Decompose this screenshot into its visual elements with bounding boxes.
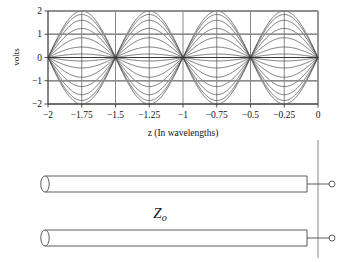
y-tick-label: 2 <box>37 6 42 16</box>
impedance-label: Zo <box>153 205 166 223</box>
x-tick-label: −1.25 <box>138 110 160 120</box>
y-tick-label: 1 <box>37 29 42 39</box>
x-tick-label: −1.5 <box>107 110 124 120</box>
x-tick-label: −0.25 <box>273 110 295 120</box>
x-tick-label: −1.75 <box>71 110 93 120</box>
x-tick-label: −0.75 <box>206 110 228 120</box>
upper-conductor-body <box>45 176 307 192</box>
upper-terminal-circle <box>329 181 335 187</box>
x-tick-label: 0 <box>316 110 321 120</box>
plot-area-group: −2−1.75−1.5−1.25−1−0.75−0.5−0.250 −2−101… <box>11 6 321 139</box>
transmission-line-diagram: Zo <box>41 140 335 258</box>
y-tick-labels: −2−1012 <box>32 6 42 109</box>
lower-conductor-body <box>45 230 307 246</box>
y-tick-label: −1 <box>32 76 42 86</box>
y-tick-label: 0 <box>37 53 42 63</box>
x-tick-label: −1 <box>178 110 188 120</box>
lower-terminal-circle <box>329 235 335 241</box>
x-tick-labels: −2−1.75−1.5−1.25−1−0.75−0.5−0.250 <box>43 110 321 120</box>
x-tick-label: −0.5 <box>242 110 259 120</box>
x-axis-title: z (In wavelengths) <box>148 128 219 139</box>
standing-wave-figure: −2−1.75−1.5−1.25−1−0.75−0.5−0.250 −2−101… <box>0 0 354 262</box>
impedance-subscript: o <box>162 212 167 223</box>
upper-conductor-end-ellipse <box>41 176 49 192</box>
lower-conductor-end-ellipse <box>41 230 49 246</box>
x-tick-label: −2 <box>43 110 53 120</box>
y-axis-title: volts <box>11 48 21 66</box>
y-tick-label: −2 <box>32 99 42 109</box>
